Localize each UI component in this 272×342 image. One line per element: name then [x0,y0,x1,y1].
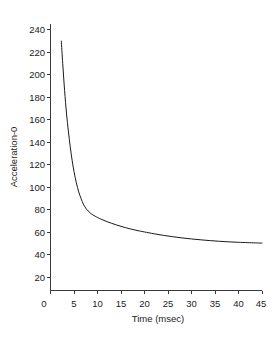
x-tick-label: 25 [163,298,174,309]
x-tick-label: 35 [210,298,221,309]
y-tick-label: 200 [29,69,45,80]
x-tick-label: 15 [116,298,127,309]
y-tick-label: 60 [34,227,45,238]
y-tick-label: 20 [34,272,45,283]
x-tick-label: 5 [71,298,76,309]
chart-figure: 20 40 60 80 100 120 140 160 180 200 220 … [0,0,272,342]
y-tick-label: 140 [29,137,45,148]
x-tick-label: 20 [139,298,150,309]
y-axis-title: Acceleration-0 [8,127,19,188]
y-tick-label: 40 [34,249,45,260]
y-tick-label: 160 [29,114,45,125]
x-tick-label: 40 [233,298,244,309]
x-tick-label: 45 [256,298,267,309]
y-tick-label: 180 [29,92,45,103]
y-tick-label: 80 [34,204,45,215]
y-tick-label: 240 [29,24,45,35]
y-tick-label: 220 [29,47,45,58]
x-tick-label: 10 [92,298,103,309]
x-tick-label: 0 [41,298,46,309]
y-tick-label: 120 [29,159,45,170]
acceleration-time-line-chart: 20 40 60 80 100 120 140 160 180 200 220 … [0,0,272,342]
y-tick-label: 100 [29,182,45,193]
x-tick-label: 30 [186,298,197,309]
x-axis-title: Time (msec) [132,313,184,324]
